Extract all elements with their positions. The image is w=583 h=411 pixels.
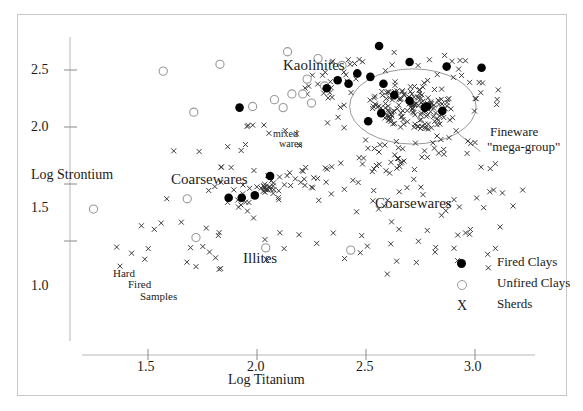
filled-circle-icon — [455, 257, 469, 271]
open-circle-icon — [455, 278, 469, 292]
annotation-fineware-line1: Fineware — [490, 124, 538, 139]
annotation-coarsewares-left: Coarsewares — [171, 171, 248, 188]
xtick-label-2.5: 2.5 — [356, 359, 374, 375]
chart-page: 2.5 2.0 1.5 1.0 Log Strontium 1.5 2.0 2.… — [0, 0, 583, 411]
annotation-coarsewares-right: Coarsewares — [375, 195, 452, 212]
annotation-samples: Samples — [140, 290, 177, 302]
annotation-wares: wares — [279, 138, 302, 149]
ytick-label-2.0: 2.0 — [31, 119, 49, 135]
legend-label-fired-clays: Fired Clays — [497, 254, 557, 270]
ytick-label-1.5: 1.5 — [31, 200, 49, 216]
annotation-illites: Illites — [243, 250, 277, 267]
unfired-clay-points — [89, 48, 354, 255]
legend-label-sherds: Sherds — [497, 296, 532, 312]
y-axis-title: Log Strontium — [31, 167, 113, 183]
annotation-fineware-line2: "mega-group" — [487, 139, 560, 154]
xtick-label-3.0: 3.0 — [464, 359, 482, 375]
legend-label-unfired-clays: Unfired Clays — [497, 275, 570, 291]
annotation-kaolinites: Kaolinites — [283, 57, 345, 74]
x-marker-icon: X — [455, 299, 469, 313]
ytick-label-1.0: 1.0 — [31, 278, 49, 294]
xtick-label-1.5: 1.5 — [137, 359, 155, 375]
annotation-fired: Fired — [128, 278, 151, 290]
x-axis-title: Log Titanium — [228, 372, 305, 388]
ytick-label-2.5: 2.5 — [31, 62, 49, 78]
